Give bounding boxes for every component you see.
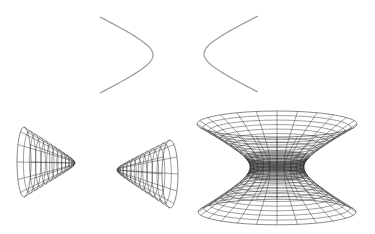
hyperboloid-two-sheets: [17, 127, 178, 208]
hyperbola-left-branch: [100, 17, 153, 93]
mesh-meridian: [117, 145, 166, 170]
hyperboloid-right-nappe: [117, 140, 178, 208]
mesh-meridian: [117, 170, 163, 191]
figure-canvas: [0, 0, 375, 234]
mesh-meridian: [28, 163, 76, 192]
hyperboloid-one-sheet: [197, 111, 357, 225]
mesh-meridian: [28, 132, 76, 163]
hyperbola-2d: [100, 16, 258, 93]
hyperboloid-left-nappe: [17, 127, 75, 197]
hyperbola-right-branch: [204, 16, 258, 92]
mesh-meridian: [117, 170, 174, 203]
